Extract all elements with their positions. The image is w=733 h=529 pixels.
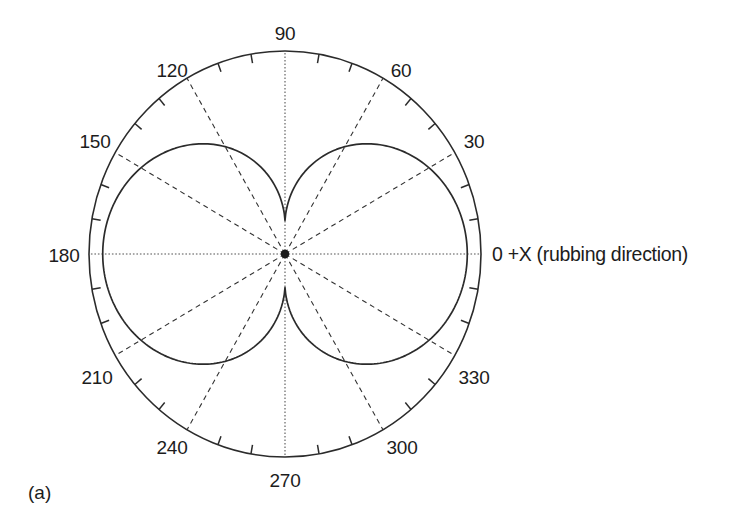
minor-tick-350 bbox=[469, 288, 478, 290]
minor-tick-170 bbox=[92, 219, 101, 221]
theta-label-300: 300 bbox=[386, 437, 417, 458]
spoke-120 bbox=[187, 78, 285, 254]
minor-tick-10 bbox=[469, 219, 478, 221]
theta-label-210: 210 bbox=[81, 367, 112, 388]
theta-label-330: 330 bbox=[458, 367, 489, 388]
polar-figure: 90 120 150 180 210 240 270 300 330 30 60… bbox=[0, 0, 733, 529]
minor-tick-310 bbox=[405, 403, 411, 410]
minor-tick-50 bbox=[405, 98, 411, 105]
polar-plot-svg: 90 120 150 180 210 240 270 300 330 30 60… bbox=[0, 0, 733, 529]
minor-tick-160 bbox=[101, 185, 109, 188]
theta-label-240: 240 bbox=[156, 437, 187, 458]
minor-tick-340 bbox=[461, 320, 469, 323]
theta-label-120: 120 bbox=[156, 60, 187, 81]
rubbing-direction-label: 0 +X (rubbing direction) bbox=[492, 243, 688, 265]
theta-label-270: 270 bbox=[269, 470, 300, 491]
minor-tick-140 bbox=[135, 124, 142, 130]
minor-tick-200 bbox=[101, 320, 109, 323]
spoke-60 bbox=[285, 78, 383, 254]
minor-tick-130 bbox=[159, 98, 165, 105]
theta-label-60: 60 bbox=[391, 60, 412, 81]
minor-tick-220 bbox=[135, 379, 142, 385]
minor-tick-260 bbox=[251, 445, 253, 454]
theta-label-180: 180 bbox=[48, 245, 79, 266]
origin-dot bbox=[281, 250, 289, 258]
minor-tick-290 bbox=[349, 436, 352, 445]
minor-tick-40 bbox=[428, 124, 435, 130]
minor-tick-100 bbox=[251, 54, 253, 63]
minor-tick-80 bbox=[318, 54, 320, 63]
minor-tick-320 bbox=[428, 379, 435, 385]
panel-caption: (a) bbox=[28, 482, 51, 503]
theta-label-150: 150 bbox=[79, 131, 110, 152]
spoke-240 bbox=[187, 254, 285, 430]
minor-tick-20 bbox=[461, 185, 469, 188]
spoke-300 bbox=[285, 254, 383, 430]
minor-tick-190 bbox=[92, 288, 101, 290]
theta-label-90: 90 bbox=[275, 23, 296, 44]
theta-label-30: 30 bbox=[464, 131, 485, 152]
minor-tick-70 bbox=[349, 63, 352, 72]
minor-tick-110 bbox=[218, 63, 221, 72]
minor-tick-230 bbox=[159, 403, 165, 410]
minor-tick-280 bbox=[318, 445, 320, 454]
minor-tick-250 bbox=[218, 436, 221, 445]
